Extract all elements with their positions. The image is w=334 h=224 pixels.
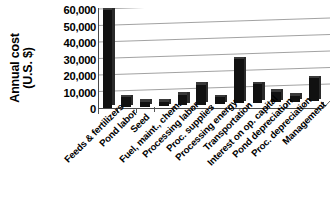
bar-chart-figure: Annual cost (U.S. $) 010,00020,00030,000… [0,0,334,224]
bar [309,78,319,101]
bar-top [159,99,169,101]
bar-face [196,85,206,105]
bar-side [206,82,208,102]
y-axis-tick-labels: 010,00020,00030,00040,00050,00060,000 [36,9,96,109]
bar [140,102,150,107]
bar-top [196,82,206,84]
bar-series [98,8,330,109]
bar-top [234,57,244,59]
bar-side [262,82,264,101]
bar-side [244,57,246,102]
bar-top [215,95,225,97]
x-axis-category-labels: Feeds & fertilizersPond laborSeedFuel, m… [0,108,334,224]
bar-face [103,10,113,107]
y-axis-title-line-2: (U.S. $) [22,47,35,88]
bar-top [178,92,188,94]
y-tick-label: 50,000 [64,21,96,33]
y-tick-label: 40,000 [64,37,96,49]
bar-top [121,95,131,97]
bar-top [103,8,113,10]
bar-top [290,93,300,95]
bar-face [309,78,319,101]
y-tick-label: 30,000 [64,54,96,66]
bar-side [112,8,114,105]
bar-top [253,82,263,84]
bar-top [309,76,319,78]
y-tick-label: 10,000 [64,87,96,99]
bar-side [131,95,133,105]
bar [234,59,244,104]
bar-side [319,76,321,99]
bar-face [253,84,263,103]
y-tick-label: 60,000 [64,4,96,16]
bar-face [140,102,150,107]
bar-side [150,99,152,104]
bar [103,10,113,107]
bar [253,84,263,103]
y-tick-label: 20,000 [64,70,96,82]
bar-top [140,99,150,101]
bar-top [271,89,281,91]
bar-face [234,59,244,104]
bar [196,85,206,105]
